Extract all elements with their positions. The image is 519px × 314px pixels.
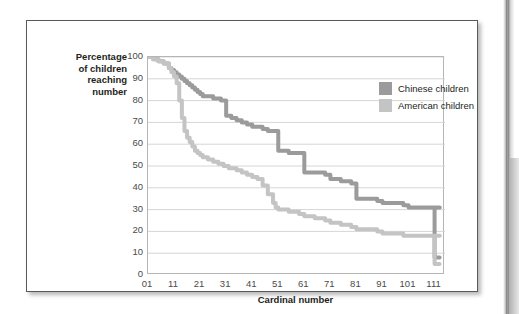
legend-entry: Chinese children xyxy=(379,81,474,95)
x-axis-title: Cardinal number xyxy=(147,294,444,305)
x-tick-label: 111 xyxy=(419,278,449,289)
figure-frame: Percentage of children reaching number 0… xyxy=(26,20,478,292)
page-gutter-line xyxy=(506,0,507,314)
legend-label: American children xyxy=(398,100,474,111)
y-tick-label: 30 xyxy=(117,204,143,214)
y-tick-label: 10 xyxy=(117,247,143,257)
page-gutter-artifact xyxy=(497,0,519,314)
x-axis-tick-labels: 01112131415161718191101111 xyxy=(147,278,444,292)
y-tick-label: 40 xyxy=(117,182,143,192)
figure-root: Percentage of children reaching number 0… xyxy=(0,0,519,314)
y-tick-label: 50 xyxy=(117,160,143,170)
legend-swatch-american xyxy=(379,99,392,112)
y-tick-label: 70 xyxy=(117,116,143,126)
y-tick-label: 80 xyxy=(117,95,143,105)
legend-swatch-chinese xyxy=(379,82,392,95)
y-tick-label: 100 xyxy=(117,51,143,61)
page-gutter-shade xyxy=(509,158,519,314)
y-tick-label: 20 xyxy=(117,225,143,235)
y-tick-label: 90 xyxy=(117,73,143,83)
y-axis-tick-labels: 0102030405060708090100 xyxy=(115,56,143,274)
chart-legend: Chinese childrenAmerican children xyxy=(379,81,474,112)
legend-label: Chinese children xyxy=(398,83,469,94)
legend-entry: American children xyxy=(379,98,474,112)
y-tick-label: 60 xyxy=(117,138,143,148)
